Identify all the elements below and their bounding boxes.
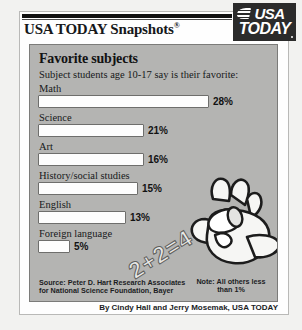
bar-row: English 13% bbox=[30, 199, 278, 228]
bar-chart: Math 28% Science 21% Art 16% bbox=[30, 83, 278, 257]
chart-panel: Favorite subjects Subject students age 1… bbox=[29, 44, 278, 302]
bar-row: Math 28% bbox=[30, 83, 278, 112]
snapshots-brand-title: USA TODAY Snapshots® bbox=[24, 21, 229, 41]
bar-category-label: History/social studies bbox=[39, 170, 130, 182]
registered-mark: ® bbox=[174, 21, 180, 30]
byline: By Cindy Hall and Jerry Mosemak, USA TOD… bbox=[29, 303, 278, 312]
bar-track bbox=[38, 211, 126, 224]
bar-fill bbox=[38, 153, 144, 166]
logo-period-mark bbox=[291, 36, 293, 38]
chart-title: Favorite subjects bbox=[39, 51, 138, 67]
bar-track bbox=[38, 182, 138, 195]
bar-track bbox=[38, 153, 144, 166]
bar-category-label: Art bbox=[39, 141, 53, 153]
header-rule-thin bbox=[22, 19, 232, 20]
bar-row: History/social studies 15% bbox=[30, 170, 278, 199]
bar-track bbox=[38, 124, 144, 137]
brand-text: USA TODAY Snapshots bbox=[24, 21, 174, 37]
bar-fill bbox=[38, 124, 144, 137]
bar-category-label: English bbox=[39, 199, 71, 211]
bar-value-label: 16% bbox=[148, 153, 168, 166]
bar-value-label: 5% bbox=[74, 240, 88, 253]
bar-fill bbox=[38, 95, 209, 108]
chart-subtitle: Subject students age 10-17 say is their … bbox=[39, 69, 238, 80]
bar-value-label: 13% bbox=[130, 211, 150, 224]
footnote-all-others: Note: All others less than 1% bbox=[192, 278, 270, 295]
bar-value-label: 15% bbox=[142, 182, 162, 195]
bar-fill bbox=[38, 211, 126, 224]
logo-line-today: TODAY bbox=[233, 20, 296, 38]
bar-category-label: Math bbox=[39, 83, 61, 95]
bar-track bbox=[38, 95, 209, 108]
bar-value-label: 28% bbox=[213, 95, 233, 108]
usa-today-snapshot-graphic: USA TODAY Snapshots® USA TODAY Favorite … bbox=[0, 0, 302, 330]
bar-track bbox=[38, 240, 70, 253]
usa-today-logo: USA TODAY bbox=[233, 3, 296, 41]
bar-category-label: Foreign language bbox=[39, 228, 112, 240]
source-note: Source: Peter D. Hart Research Associate… bbox=[39, 279, 189, 296]
header-rule bbox=[22, 14, 232, 18]
bar-fill bbox=[38, 182, 138, 195]
bar-category-label: Science bbox=[39, 112, 72, 124]
bar-row: Science 21% bbox=[30, 112, 278, 141]
bar-value-label: 21% bbox=[148, 124, 168, 137]
bar-fill bbox=[38, 240, 70, 253]
bar-row: Art 16% bbox=[30, 141, 278, 170]
